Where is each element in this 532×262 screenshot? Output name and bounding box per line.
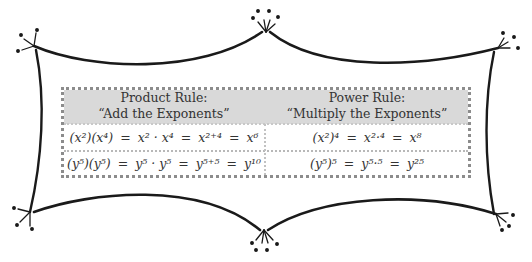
exponent-rules-table: Product Rule: “Add the Exponents” Power … xyxy=(61,87,471,178)
table-border xyxy=(61,87,471,178)
